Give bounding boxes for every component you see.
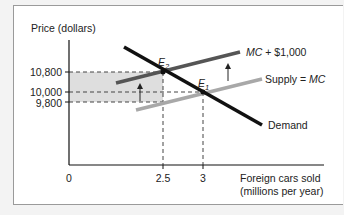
demand-label: Demand	[268, 119, 308, 131]
tick-label-0: 0	[66, 172, 72, 184]
tick-label-9800: 9,800	[36, 97, 62, 109]
tick-label-3: 3	[200, 172, 206, 184]
x-ticks	[163, 165, 203, 169]
y-axis-label: Price (dollars)	[31, 22, 96, 34]
supply-mc-label: Supply = MC	[265, 73, 326, 85]
x-axis-label-line2: (millions per year)	[240, 185, 323, 197]
tick-label-2-5: 2.5	[156, 172, 171, 184]
mc-plus-tax-label: MC + $1,000	[246, 46, 307, 58]
supply-demand-chart: Price (dollars) 10,800 10,000 9,800 0 2.…	[0, 0, 344, 215]
x-axis-label-line1: Foreign cars sold	[240, 172, 321, 184]
tick-label-10800: 10,800	[30, 66, 62, 78]
